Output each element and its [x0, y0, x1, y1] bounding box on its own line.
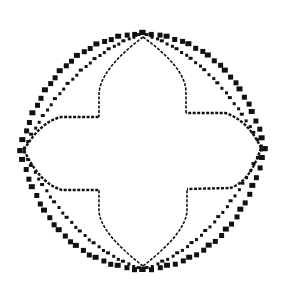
dot-marker [200, 49, 205, 54]
dot-marker [263, 146, 268, 151]
dot-marker [73, 243, 79, 248]
dot-marker [235, 214, 240, 219]
dot-marker [89, 62, 92, 65]
dot-marker [254, 175, 259, 180]
diagram-canvas [0, 0, 292, 290]
dot-marker [258, 165, 263, 170]
dot-marker [229, 199, 233, 202]
dot-marker [228, 96, 232, 99]
dot-marker [181, 249, 184, 252]
dot-marker [109, 37, 114, 42]
dot-marker [201, 248, 206, 253]
dot-marker [137, 266, 141, 269]
dot-marker [185, 54, 188, 57]
dot-marker [247, 192, 252, 197]
dot-marker [108, 262, 113, 267]
dot-marker [50, 103, 53, 106]
dot-marker [219, 233, 224, 238]
dot-marker [93, 255, 99, 260]
curve-diagram [0, 0, 292, 290]
dot-marker [202, 68, 206, 71]
dot-marker [115, 263, 121, 268]
dot-marker [206, 243, 212, 248]
dot-marker [68, 239, 73, 244]
dot-marker [49, 196, 52, 199]
dot-marker [53, 97, 57, 100]
dot-marker [103, 51, 106, 54]
dot-marker [57, 68, 63, 73]
dot-marker [223, 227, 229, 232]
dot-marker [81, 248, 86, 253]
dot-marker [242, 95, 247, 100]
dot-marker [93, 57, 97, 60]
dot-marker [171, 45, 174, 48]
dot-marker [245, 119, 248, 122]
dot-marker [35, 103, 40, 108]
dot-marker [208, 73, 211, 76]
dot-marker [24, 128, 29, 133]
dot-marker [257, 127, 262, 132]
dot-marker [238, 188, 241, 191]
dot-marker [56, 227, 62, 232]
dot-marker [199, 65, 202, 68]
dot-marker [47, 215, 52, 220]
dot-marker [107, 47, 111, 50]
dot-marker [215, 81, 219, 84]
dot-marker [212, 77, 215, 80]
dot-marker [209, 225, 212, 228]
dot-marker [237, 107, 240, 110]
dot-marker [98, 245, 101, 248]
dot-marker [240, 113, 244, 116]
dot-marker [38, 202, 43, 207]
dot-marker [193, 46, 198, 51]
dot-marker [229, 222, 234, 227]
cross-edge [24, 150, 99, 190]
dot-marker [101, 259, 106, 264]
dot-marker [234, 194, 237, 197]
dot-marker [37, 178, 40, 181]
dot-marker [124, 265, 129, 270]
dot-marker [27, 120, 32, 125]
dot-marker [164, 34, 170, 39]
dot-marker [71, 78, 74, 81]
dot-marker [228, 75, 233, 80]
dot-marker [156, 262, 159, 265]
dot-marker [145, 266, 149, 269]
dot-marker [158, 265, 163, 270]
dot-marker [194, 252, 199, 257]
dot-marker [226, 205, 229, 208]
dot-marker [74, 53, 80, 58]
dot-marker [181, 258, 186, 263]
dot-marker [259, 135, 265, 140]
cross-edge [99, 190, 143, 266]
dot-marker [194, 61, 197, 64]
dot-marker [58, 206, 61, 209]
cross-edge [187, 148, 261, 189]
dot-marker [166, 258, 169, 261]
dot-marker [62, 88, 65, 91]
dot-marker [24, 167, 29, 172]
dot-marker [52, 200, 56, 203]
dot-marker [185, 41, 191, 46]
dot-marker [78, 230, 82, 233]
outer-dotted-curve [18, 30, 268, 272]
dot-marker [173, 262, 178, 267]
cross-edge [24, 117, 99, 150]
dot-marker [151, 36, 154, 39]
dot-marker [79, 69, 83, 72]
dot-marker [158, 33, 163, 38]
dot-marker [203, 229, 207, 232]
dot-marker [70, 221, 73, 224]
cross-edge [99, 37, 143, 117]
dot-marker [48, 81, 53, 86]
dot-marker [102, 249, 105, 252]
dot-marker [45, 189, 48, 192]
dot-marker [137, 33, 141, 36]
dot-marker [87, 253, 92, 258]
dot-marker [88, 46, 93, 51]
dot-marker [216, 215, 220, 218]
dot-marker [175, 251, 179, 254]
dot-marker [180, 39, 185, 44]
cross-edge [143, 37, 186, 113]
dot-marker [156, 37, 159, 40]
